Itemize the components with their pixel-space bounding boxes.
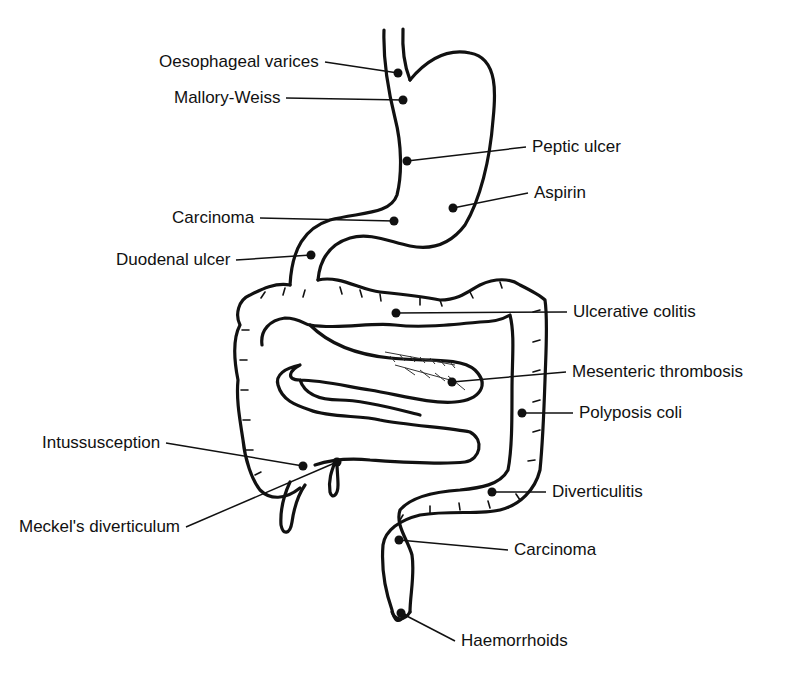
marker-dot-diverticulitis xyxy=(488,488,497,497)
marker-dot-mallory-weiss xyxy=(399,96,408,105)
stomach-greater-curvature xyxy=(318,52,495,280)
marker-dot-polyposis-coli xyxy=(518,409,527,418)
leader-mesenteric-thrombosis xyxy=(452,372,566,382)
label-oesophageal-varices: Oesophageal varices xyxy=(159,52,319,72)
label-carcinoma-stomach: Carcinoma xyxy=(172,208,254,228)
leader-haemorrhoids xyxy=(401,613,455,641)
small-intestine xyxy=(277,325,482,465)
marker-dot-mesenteric-thrombosis xyxy=(448,378,457,387)
leader-aspirin xyxy=(453,193,528,208)
label-ulcerative-colitis: Ulcerative colitis xyxy=(573,302,696,322)
gi-tract-illustration xyxy=(0,0,804,679)
colon-outer xyxy=(235,279,547,620)
label-aspirin: Aspirin xyxy=(534,183,586,203)
leader-mallory-weiss xyxy=(286,98,403,100)
label-haemorrhoids: Haemorrhoids xyxy=(461,631,568,651)
gi-bleeding-diagram: Oesophageal varices Mallory-Weiss Peptic… xyxy=(0,0,804,679)
label-meckels-diverticulum: Meckel's diverticulum xyxy=(19,517,180,537)
label-mesenteric-thrombosis: Mesenteric thrombosis xyxy=(572,362,743,382)
label-intussusception: Intussusception xyxy=(42,433,160,453)
marker-dot-carcinoma-colon xyxy=(395,536,404,545)
meckels-diverticulum-shape xyxy=(329,462,338,496)
marker-dot-peptic-ulcer xyxy=(403,157,412,166)
label-peptic-ulcer: Peptic ulcer xyxy=(532,137,621,157)
label-diverticulitis: Diverticulitis xyxy=(552,482,643,502)
label-polyposis-coli: Polyposis coli xyxy=(579,403,682,423)
label-mallory-weiss: Mallory-Weiss xyxy=(174,88,280,108)
label-carcinoma-colon: Carcinoma xyxy=(514,540,596,560)
marker-dot-meckels-diverticulum xyxy=(333,458,342,467)
leader-duodenal-ulcer xyxy=(236,255,311,260)
label-duodenal-ulcer: Duodenal ulcer xyxy=(116,250,230,270)
marker-dot-aspirin xyxy=(449,204,458,213)
appendix-shape xyxy=(281,482,305,532)
leader-carcinoma-colon xyxy=(399,540,508,550)
leader-ulcerative-colitis xyxy=(396,312,567,313)
marker-dot-intussusception xyxy=(299,462,308,471)
oesophagus-right-wall xyxy=(403,29,410,80)
marker-dot-duodenal-ulcer xyxy=(307,251,316,260)
marker-dot-haemorrhoids xyxy=(397,609,406,618)
marker-dot-oesophageal-varices xyxy=(394,69,403,78)
marker-dot-carcinoma-stomach xyxy=(390,217,399,226)
marker-dot-ulcerative-colitis xyxy=(392,309,401,318)
leader-peptic-ulcer xyxy=(407,147,526,161)
leader-intussusception xyxy=(166,443,303,466)
